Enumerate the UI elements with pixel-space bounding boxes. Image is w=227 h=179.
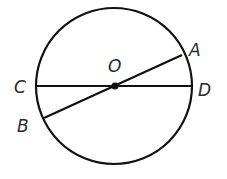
label-O: O [108, 56, 121, 76]
center-point-O [111, 82, 118, 89]
circle-diagram: O A B C D [0, 0, 227, 179]
label-A: A [188, 40, 201, 60]
label-C: C [14, 77, 26, 97]
label-B: B [17, 116, 29, 136]
label-D: D [198, 80, 211, 100]
